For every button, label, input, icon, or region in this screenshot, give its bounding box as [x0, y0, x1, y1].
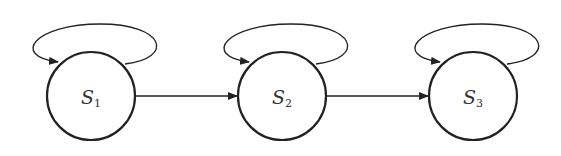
diagram-canvas	[0, 0, 561, 156]
state-label-s1: S1	[81, 86, 101, 110]
state-label-s3: S3	[463, 86, 483, 110]
state-label-s2: S2	[272, 86, 292, 110]
state-diagram: S1 S2 S3	[0, 0, 561, 156]
